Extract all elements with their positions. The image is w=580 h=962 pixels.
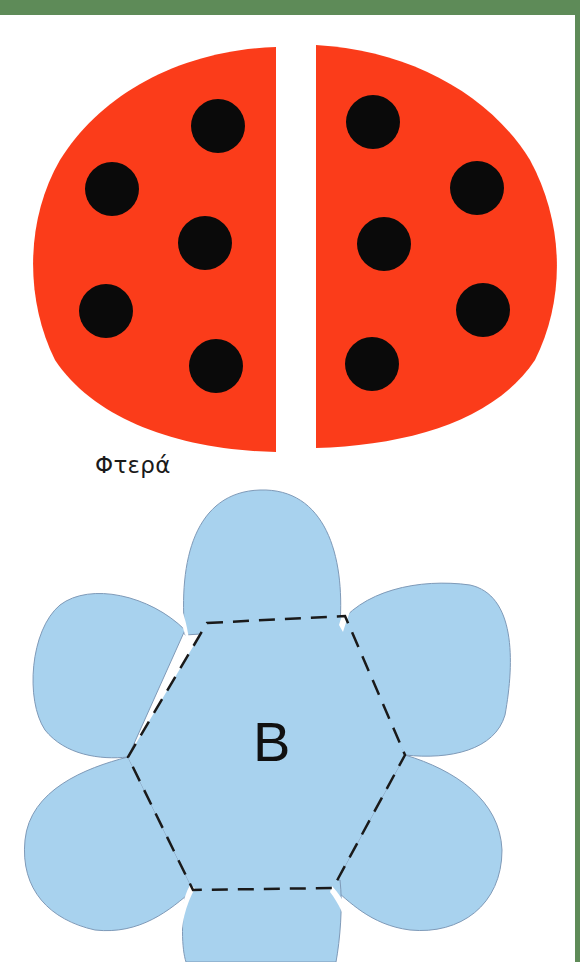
- petal-bottom: [183, 880, 342, 962]
- ladybug-spot: [345, 337, 399, 391]
- flower-letter-label: B: [253, 714, 290, 770]
- petal-top: [184, 490, 341, 635]
- ladybug-spot: [79, 284, 133, 338]
- ladybug-spot: [85, 162, 139, 216]
- ladybug-spot: [191, 99, 245, 153]
- ladybug-spot: [346, 95, 400, 149]
- right-wing: [316, 45, 557, 448]
- ladybug-spot: [456, 283, 510, 337]
- ladybug-spot: [178, 216, 232, 270]
- ladybug-spot: [357, 217, 411, 271]
- wings-label: Φτερά: [95, 452, 171, 478]
- left-wing: [33, 47, 276, 452]
- cutout-artwork: [0, 0, 580, 962]
- ladybug-spot: [189, 339, 243, 393]
- ladybug-spot: [450, 161, 504, 215]
